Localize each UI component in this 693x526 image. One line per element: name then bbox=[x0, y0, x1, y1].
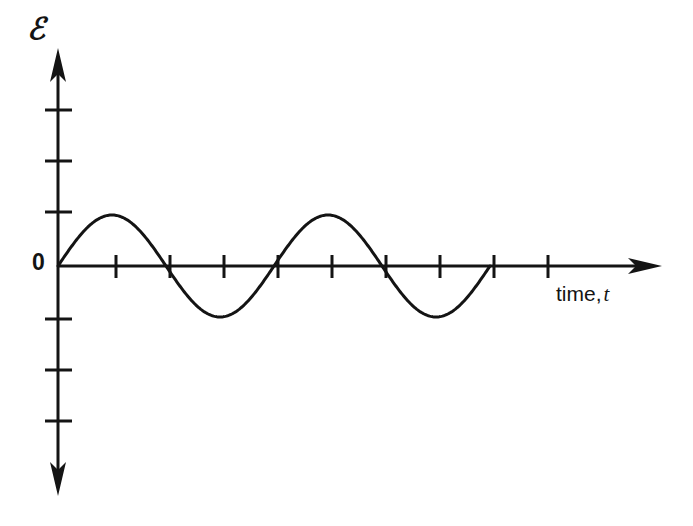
x-axis-group bbox=[58, 255, 662, 278]
y-axis-label-emf: ℰ bbox=[27, 14, 45, 44]
x-axis-label-variable: t bbox=[602, 282, 610, 306]
x-axis-label-time: time,t bbox=[556, 283, 609, 305]
origin-label-zero: 0 bbox=[32, 251, 45, 274]
graph-canvas bbox=[0, 0, 693, 526]
emf-time-graph-figure: ℰ 0 time,t bbox=[0, 0, 693, 526]
x-axis-label-prefix: time, bbox=[556, 282, 602, 305]
y-axis-group bbox=[45, 48, 72, 496]
